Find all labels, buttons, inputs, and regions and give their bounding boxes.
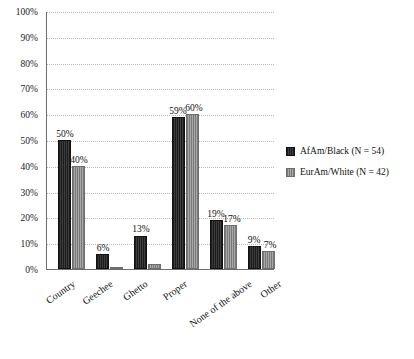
x-label-geechee: Geechee	[80, 278, 115, 307]
y-tick-50: 50%	[21, 136, 38, 146]
y-tick-100: 100%	[16, 7, 38, 17]
legend-label-euram: EurAm/White (N = 42)	[300, 167, 389, 177]
bar-euram-geechee	[110, 267, 123, 269]
bar-chart: 0% 10% 20% 30% 40% 50% 60% 70% 80% 90% 1…	[0, 0, 414, 359]
bar-afam-geechee	[96, 254, 109, 270]
y-tick-90: 90%	[21, 33, 38, 43]
bar-group-country: 50% 40%	[58, 12, 85, 269]
x-axis-labels: Country Geechee Ghetto Proper None of th…	[46, 272, 274, 342]
bar-euram-none	[224, 225, 237, 269]
bar-value-euram-none: 17%	[219, 214, 245, 224]
x-label-proper: Proper	[161, 278, 189, 302]
y-axis-labels: 0% 10% 20% 30% 40% 50% 60% 70% 80% 90% 1…	[0, 12, 42, 270]
plot-area: 50% 40% 6% 13% 59% 60% 19% 17%	[46, 12, 274, 270]
x-label-country: Country	[44, 278, 77, 306]
bar-group-proper: 59% 60%	[172, 12, 199, 269]
bar-euram-proper	[186, 114, 199, 269]
bar-group-other: 9% 7%	[248, 12, 275, 269]
bar-afam-none	[210, 220, 223, 269]
bar-group-none-of-the-above: 19% 17%	[210, 12, 237, 269]
bar-group-geechee: 6%	[96, 12, 123, 269]
legend-item-euram: EurAm/White (N = 42)	[286, 167, 410, 177]
legend-item-afam: AfAm/Black (N = 54)	[286, 146, 410, 156]
legend-swatch-euram-icon	[286, 168, 295, 177]
x-label-none-of-the-above: None of the above	[187, 278, 254, 329]
legend-label-afam: AfAm/Black (N = 54)	[300, 146, 384, 156]
bar-value-afam-ghetto: 13%	[128, 224, 154, 234]
x-label-ghetto: Ghetto	[121, 278, 150, 303]
y-tick-10: 10%	[21, 239, 38, 249]
bar-afam-ghetto	[134, 236, 147, 270]
bar-afam-proper	[172, 117, 185, 269]
bar-value-euram-country: 40%	[66, 155, 92, 165]
y-tick-40: 40%	[21, 162, 38, 172]
bar-value-euram-proper: 60%	[181, 103, 207, 113]
legend: AfAm/Black (N = 54) EurAm/White (N = 42)	[286, 146, 410, 188]
bar-euram-country	[72, 166, 85, 269]
y-tick-0: 0%	[25, 265, 38, 275]
bar-euram-other	[262, 251, 275, 269]
legend-swatch-afam-icon	[286, 147, 295, 156]
bar-value-euram-other: 7%	[257, 240, 283, 250]
y-tick-80: 80%	[21, 59, 38, 69]
y-tick-60: 60%	[21, 110, 38, 120]
x-label-other: Other	[258, 278, 283, 300]
bar-euram-ghetto	[148, 264, 161, 269]
bar-group-ghetto: 13%	[134, 12, 161, 269]
bar-value-afam-geechee: 6%	[90, 243, 116, 253]
bar-value-afam-country: 50%	[52, 129, 78, 139]
y-tick-30: 30%	[21, 188, 38, 198]
y-tick-70: 70%	[21, 84, 38, 94]
y-tick-20: 20%	[21, 213, 38, 223]
